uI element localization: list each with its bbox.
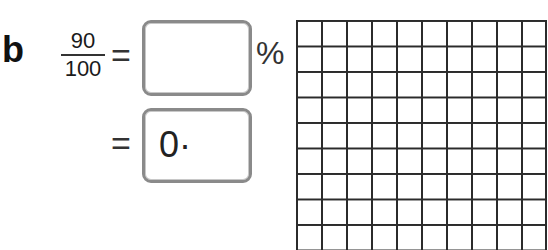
percent-answer-box[interactable]: [142, 20, 252, 96]
decimal-answer-box[interactable]: 0·: [142, 108, 252, 183]
equals-sign-2: =: [111, 126, 131, 160]
fraction-numerator: 90: [60, 30, 106, 53]
fraction: 90 100: [60, 30, 106, 80]
equals-sign: =: [111, 38, 131, 72]
percent-sign: %: [256, 36, 284, 70]
fraction-denominator: 100: [60, 58, 106, 80]
decimal-prefill: 0·: [159, 125, 191, 165]
question-label: b: [2, 30, 24, 70]
hundred-grid[interactable]: [296, 20, 547, 250]
